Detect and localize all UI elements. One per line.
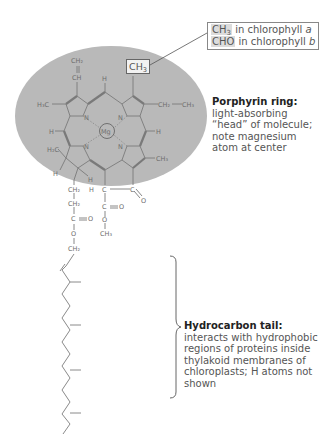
porphyrin-ring-label: Porphyrin ring: light-absorbing “head” o… (212, 96, 312, 154)
svg-text:CH₃: CH₃ (100, 230, 112, 238)
svg-text:H₃C: H₃C (37, 101, 49, 109)
callout-leader-line (150, 33, 207, 65)
hydrocarbon-tail (60, 254, 81, 434)
svg-text:O: O (141, 197, 146, 205)
svg-text:N: N (84, 143, 89, 151)
svg-text:N: N (118, 143, 123, 151)
svg-text:O: O (71, 230, 76, 238)
svg-text:H: H (102, 75, 107, 83)
svg-text:CH₂: CH₂ (68, 200, 80, 208)
svg-text:O: O (119, 203, 124, 211)
callout-row-chlorophyll-a: CH3 in chlorophyll a (211, 24, 315, 36)
callout-text: in chlorophyll (235, 36, 309, 47)
ch3-subscript: 3 (143, 66, 147, 74)
ch3-group-label: CH (129, 61, 143, 72)
tail-bracket (170, 256, 181, 398)
svg-text:H: H (156, 128, 161, 136)
porphyrin-ring-description: light-absorbing “head” of molecule; note… (212, 108, 312, 154)
ch3-highlight-box: CH3 (126, 59, 150, 74)
svg-text:C: C (102, 203, 107, 211)
svg-text:CH: CH (72, 74, 82, 82)
svg-text:H: H (88, 176, 93, 184)
svg-text:C: C (71, 215, 76, 223)
svg-text:CH₂: CH₂ (68, 245, 80, 253)
svg-text:H: H (89, 186, 94, 194)
callout-text: in chlorophyll (232, 24, 306, 35)
svg-text:N: N (84, 114, 89, 122)
svg-text:O: O (102, 216, 107, 224)
svg-text:CH₃: CH₃ (156, 155, 168, 163)
group-cho: CHO (211, 36, 235, 47)
hydrocarbon-tail-label: Hydrocarbon tail: interacts with hydroph… (184, 320, 318, 389)
svg-text:CH₂: CH₂ (158, 101, 170, 109)
svg-text:C: C (102, 186, 107, 194)
svg-text:N: N (118, 114, 123, 122)
callout-row-chlorophyll-b: CHO in chlorophyll b (211, 36, 315, 48)
svg-text:O: O (88, 215, 93, 223)
chlorophyll-variant-callout: CH3 in chlorophyll a CHO in chlorophyll … (207, 22, 319, 50)
variant-a: a (306, 24, 312, 35)
group-ch3: CH3 (211, 24, 232, 35)
svg-text:C: C (130, 186, 135, 194)
svg-text:CH₂: CH₂ (68, 186, 80, 194)
porphyrin-ring-title: Porphyrin ring: (212, 96, 312, 108)
svg-text:CH₃: CH₃ (182, 101, 194, 109)
porphyrin-ring-shading (15, 46, 207, 186)
variant-b: b (309, 36, 315, 47)
svg-text:CH₂: CH₂ (71, 57, 83, 65)
svg-text:Mg: Mg (101, 128, 111, 136)
hydrocarbon-tail-title: Hydrocarbon tail: (184, 320, 318, 332)
hydrocarbon-tail-description: interacts with hydrophobic regions of pr… (184, 332, 318, 390)
svg-text:H: H (49, 128, 54, 136)
svg-text:H: H (53, 170, 58, 178)
svg-text:H₂C: H₂C (47, 146, 59, 154)
